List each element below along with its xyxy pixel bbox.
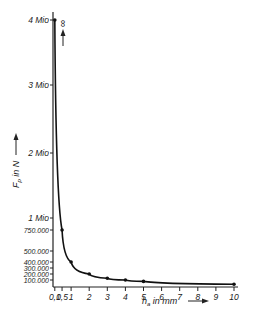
svg-text:400.000: 400.000 [24,259,49,266]
svg-text:3 Mio: 3 Mio [28,80,49,90]
up-arrow-icon [14,133,19,140]
right-arrow-icon [202,299,209,304]
svg-text:ha in mm: ha in mm [142,296,178,307]
y-axis-arrow [14,133,19,155]
svg-text:3: 3 [105,292,110,302]
svg-text:4: 4 [123,292,128,302]
svg-text:2 Mio: 2 Mio [27,148,49,158]
svg-text:0,5: 0,5 [56,292,68,302]
chart: 100.000200.000300.000400.000500.000750.0… [0,0,253,315]
svg-text:Fp in N: Fp in N [11,160,22,188]
svg-text:2: 2 [86,292,92,302]
svg-text:1: 1 [69,292,74,302]
svg-text:4 Mio: 4 Mio [28,15,49,25]
data-points [53,18,236,286]
svg-text:9: 9 [214,292,219,302]
svg-text:10: 10 [229,292,239,302]
data-curve [55,20,234,284]
y-axis-label: Fp in N [11,160,22,188]
svg-text:300.000: 300.000 [24,265,49,272]
up-arrow-icon [61,29,66,36]
y-ticks: 100.000200.000300.000400.000500.000750.0… [23,15,53,284]
svg-text:7: 7 [177,292,182,302]
svg-text:750.000: 750.000 [24,227,49,234]
infinity-symbol: ∞ [58,20,69,27]
svg-text:1 Mio: 1 Mio [28,213,49,223]
svg-text:500.000: 500.000 [24,248,49,255]
svg-text:100.000: 100.000 [24,277,49,284]
svg-text:200.000: 200.000 [23,271,49,278]
axes [53,12,238,287]
infinity-annotation: ∞ [58,20,69,46]
